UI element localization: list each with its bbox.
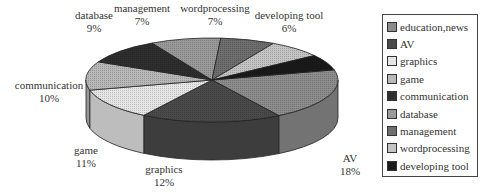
legend-label: communication xyxy=(400,90,468,102)
data-label-value: 7% xyxy=(114,15,170,28)
data-label-name: wordprocessing xyxy=(180,2,250,15)
legend-item: communication xyxy=(387,88,477,105)
data-label-value: 6% xyxy=(255,22,324,35)
legend-item: wordprocessing xyxy=(387,140,477,157)
legend-label: education,news xyxy=(400,21,468,33)
chart-legend: education,newsAVgraphicsgamecommunicatio… xyxy=(382,14,478,177)
legend-label: management xyxy=(400,125,456,137)
legend-swatch xyxy=(387,126,397,136)
legend-item: developing tool xyxy=(387,157,477,174)
legend-item: graphics xyxy=(387,53,477,70)
legend-label: graphics xyxy=(400,55,437,67)
data-label-3: game11% xyxy=(74,144,98,170)
data-label-2: graphics12% xyxy=(145,163,182,189)
legend-swatch xyxy=(387,161,397,171)
legend-label: wordprocessing xyxy=(400,142,470,154)
data-label-5: database9% xyxy=(75,9,113,35)
data-label-value: 9% xyxy=(75,22,113,35)
data-label-1: AV18% xyxy=(340,152,360,178)
data-label-name: graphics xyxy=(145,163,182,176)
legend-label: developing tool xyxy=(400,160,469,172)
data-label-name: developing tool xyxy=(255,9,324,22)
legend-item: management xyxy=(387,122,477,139)
data-label-value: 18% xyxy=(340,165,360,178)
legend-label: game xyxy=(400,73,424,85)
legend-item: game xyxy=(387,70,477,87)
legend-item: database xyxy=(387,105,477,122)
data-label-7: wordprocessing7% xyxy=(180,2,250,28)
data-label-name: game xyxy=(74,144,98,157)
legend-label: AV xyxy=(400,38,414,50)
data-label-name: communication xyxy=(15,79,83,92)
data-label-value: 11% xyxy=(74,157,98,170)
data-label-4: communication10% xyxy=(15,79,83,105)
legend-swatch xyxy=(387,143,397,153)
legend-label: database xyxy=(400,108,438,120)
legend-swatch xyxy=(387,56,397,66)
legend-swatch xyxy=(387,39,397,49)
legend-item: AV xyxy=(387,35,477,52)
data-label-value: 7% xyxy=(180,15,250,28)
data-label-name: management xyxy=(114,2,170,15)
legend-swatch xyxy=(387,109,397,119)
data-label-name: AV xyxy=(340,152,360,165)
data-label-8: developing tool6% xyxy=(255,9,324,35)
data-label-value: 10% xyxy=(15,92,83,105)
legend-swatch xyxy=(387,22,397,32)
legend-item: education,news xyxy=(387,18,477,35)
legend-swatch xyxy=(387,74,397,84)
legend-swatch xyxy=(387,91,397,101)
data-label-6: management7% xyxy=(114,2,170,28)
data-label-value: 12% xyxy=(145,176,182,189)
data-label-name: database xyxy=(75,9,113,22)
